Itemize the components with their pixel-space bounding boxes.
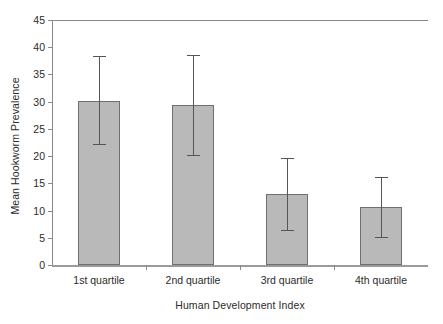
y-tick-label: 35 [33,68,45,80]
x-tick-mark [334,265,335,270]
y-axis-line [52,20,53,266]
error-bar-line [287,158,288,229]
x-tick-label: 1st quartile [73,274,124,286]
y-tick-mark [48,265,52,266]
plot-area: 051015202530354045 1st quartile2nd quart… [52,20,428,265]
error-bar-cap-lower [281,230,294,231]
y-tick-mark [48,211,52,212]
error-bar-line [381,177,382,237]
error-bar-cap-upper [281,158,294,159]
y-tick-mark [48,183,52,184]
y-tick-mark [48,20,52,21]
error-bar-line [99,56,100,143]
y-tick-mark [48,238,52,239]
y-tick-mark [48,156,52,157]
error-bar-cap-lower [375,237,388,238]
y-axis-title: Mean Hookworm Prevalence [6,12,24,280]
plot-top-border [52,20,428,21]
y-tick-label: 45 [33,14,45,26]
x-tick-mark [240,265,241,270]
error-bar-cap-lower [187,155,200,156]
y-tick-mark [48,74,52,75]
error-bar-cap-upper [187,55,200,56]
x-tick-label: 4th quartile [355,274,407,286]
y-tick-label: 10 [33,205,45,217]
error-bar-cap-upper [93,56,106,57]
y-tick-label: 25 [33,123,45,135]
error-bar-cap-upper [375,177,388,178]
y-tick-label: 0 [39,259,45,271]
error-bar-cap-lower [93,144,106,145]
y-tick-label: 15 [33,177,45,189]
y-tick-label: 40 [33,41,45,53]
error-bar-line [193,55,194,155]
x-tick-label: 3rd quartile [261,274,314,286]
y-tick-label: 5 [39,232,45,244]
y-tick-label: 20 [33,150,45,162]
y-tick-label: 30 [33,96,45,108]
x-tick-mark [146,265,147,270]
y-tick-mark [48,102,52,103]
x-axis-title: Human Development Index [52,299,428,311]
y-tick-mark [48,129,52,130]
y-tick-mark [48,47,52,48]
x-tick-label: 2nd quartile [166,274,221,286]
bar-chart-figure: Mean Hookworm Prevalence 051015202530354… [0,0,443,324]
